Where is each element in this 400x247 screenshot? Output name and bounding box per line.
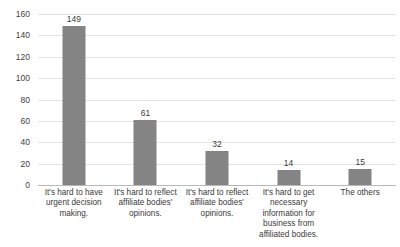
bar-value-label: 32 xyxy=(212,139,221,149)
category-axis-labels: It's hard to have urgent decision making… xyxy=(38,188,396,247)
bar[interactable] xyxy=(349,169,372,185)
bar[interactable] xyxy=(277,170,300,185)
bar-value-label: 14 xyxy=(284,158,293,168)
y-tick-label: 60 xyxy=(21,116,30,125)
bar-value-label: 149 xyxy=(67,14,81,24)
bar[interactable] xyxy=(62,26,85,185)
y-tick-label: 120 xyxy=(16,52,30,61)
y-tick-label: 80 xyxy=(21,95,30,104)
category-label: The others xyxy=(324,188,396,198)
y-tick-label: 100 xyxy=(16,74,30,83)
bars-layer: 14961321415 xyxy=(38,14,396,185)
y-tick-label: 40 xyxy=(21,138,30,147)
y-axis: 020406080100120140160 xyxy=(0,0,38,199)
y-tick-label: 20 xyxy=(21,159,30,168)
bar-value-label: 15 xyxy=(355,157,364,167)
bar-slot: 14 xyxy=(253,14,325,185)
axis-baseline xyxy=(38,185,396,186)
bar-slot: 61 xyxy=(110,14,182,185)
category-label: It's hard to reflect affiliate bodies' o… xyxy=(181,188,253,219)
category-label: It's hard to get necessary information f… xyxy=(253,188,325,240)
bar[interactable] xyxy=(205,151,228,185)
y-tick-label: 140 xyxy=(16,31,30,40)
bar[interactable] xyxy=(134,120,157,185)
bar-slot: 15 xyxy=(324,14,396,185)
bar-slot: 32 xyxy=(181,14,253,185)
bar-value-label: 61 xyxy=(141,108,150,118)
category-label: It's hard to have urgent decision making… xyxy=(38,188,110,219)
bar-chart: 020406080100120140160 14961321415 It's h… xyxy=(0,0,400,247)
bar-slot: 149 xyxy=(38,14,110,185)
y-tick-label: 160 xyxy=(16,10,30,19)
y-tick-label: 0 xyxy=(25,181,30,190)
category-label: It's hard to reflect affiliate bodies' o… xyxy=(110,188,182,219)
